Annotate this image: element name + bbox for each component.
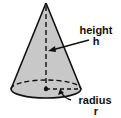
radius-symbol: r [88,106,104,117]
height-symbol: h [88,36,104,47]
base-center-dot [44,87,48,91]
cone-diagram: height h radius r [0,0,121,118]
